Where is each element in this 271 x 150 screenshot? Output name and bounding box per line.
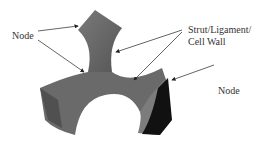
arrow-node-top-1 bbox=[38, 26, 78, 31]
strut-label-line1: Strut/Ligament/ bbox=[188, 24, 251, 35]
arrow-strut-1 bbox=[116, 30, 182, 52]
strut-label-line2: Cell Wall bbox=[188, 36, 226, 47]
node-label-right: Node bbox=[218, 85, 240, 96]
foam-cell-diagram bbox=[0, 0, 271, 150]
arrow-node-right bbox=[172, 65, 214, 80]
node-label-top: Node bbox=[12, 30, 34, 41]
top-strut bbox=[78, 10, 122, 72]
arrow-node-top-2 bbox=[38, 40, 84, 72]
